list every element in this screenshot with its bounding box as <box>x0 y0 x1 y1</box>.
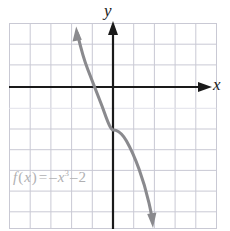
function-argument: x <box>24 169 31 185</box>
leading-minus-sign: – <box>48 169 58 185</box>
constant-term: 2 <box>78 169 86 185</box>
curve-arrow-down <box>147 212 156 228</box>
function-curve <box>73 27 157 229</box>
x-axis <box>9 82 212 92</box>
close-paren: ) <box>31 169 38 185</box>
equals-sign: = <box>38 169 48 185</box>
y-axis-label: y <box>104 2 112 19</box>
function-equation-label: f(x)=–x3–2 <box>13 170 86 185</box>
curve-arrow-up <box>73 27 82 42</box>
x-axis-label: x <box>213 76 221 93</box>
coordinate-plane <box>0 0 230 231</box>
graph-figure: y x f(x)=–x3–2 <box>0 0 230 231</box>
